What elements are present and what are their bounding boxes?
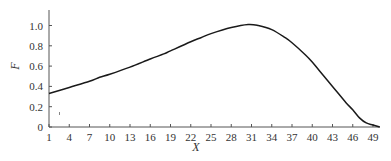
x-axis-label: X (191, 140, 200, 154)
x-tick-label: 37 (287, 131, 299, 143)
y-tick-label: 0.6 (29, 60, 43, 72)
x-tick-label: 40 (307, 131, 319, 143)
y-tick-label: 0.8 (29, 40, 43, 52)
y-tick-label: 0.2 (29, 101, 43, 113)
axes (49, 10, 380, 127)
y-tick-label: 1.0 (29, 20, 43, 32)
y-tick-label: 0 (38, 121, 44, 133)
x-tick-label: 4 (67, 131, 73, 143)
line-chart: 00.20.40.60.81.0 14710131619222528313437… (0, 0, 391, 161)
data-line-F (49, 24, 380, 127)
y-axis-label: F (8, 62, 22, 71)
x-tick-label: 31 (246, 131, 257, 143)
x-tick-label: 34 (266, 131, 278, 143)
x-tick-label: 19 (165, 131, 177, 143)
x-tick-label: 13 (125, 131, 137, 143)
y-tick-label: 0.4 (29, 80, 43, 92)
x-tick-label: 10 (104, 131, 116, 143)
x-tick-label: 28 (226, 131, 238, 143)
x-tick-label: 49 (368, 131, 380, 143)
x-tick-label: 43 (327, 131, 339, 143)
x-tick-label: 1 (46, 131, 52, 143)
x-tick-label: 25 (206, 131, 218, 143)
x-tick-label: 46 (347, 131, 359, 143)
x-tick-label: 16 (145, 131, 157, 143)
x-tick-label: 7 (87, 131, 93, 143)
